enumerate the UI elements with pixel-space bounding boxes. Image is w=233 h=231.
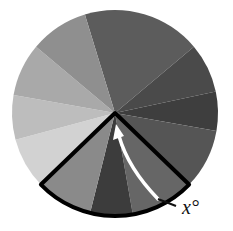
angle-label: x° <box>182 196 199 219</box>
